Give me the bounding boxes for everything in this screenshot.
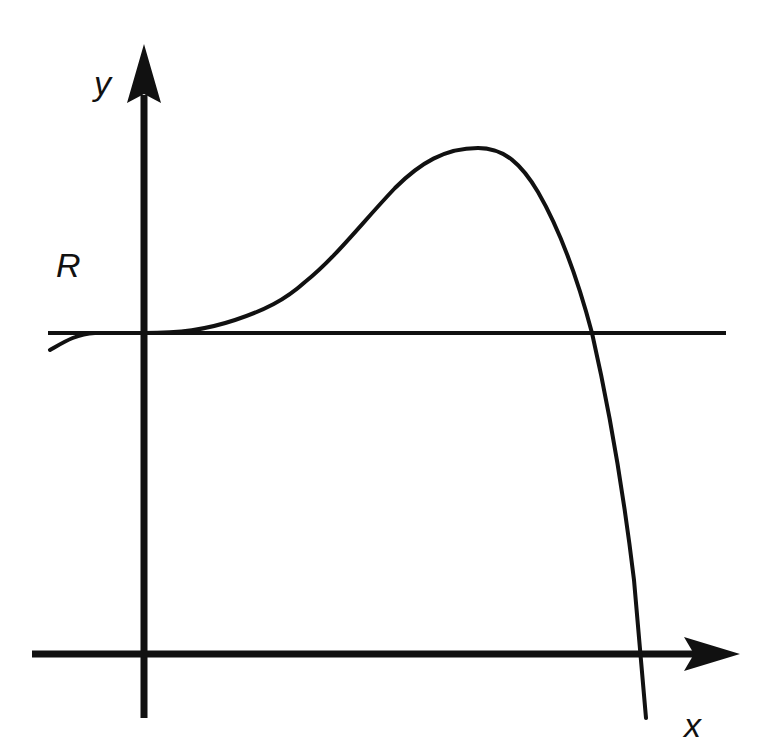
diagram: y R x — [0, 0, 776, 754]
x-axis-label: x — [684, 708, 701, 742]
y-axis-arrowhead-icon — [127, 44, 161, 103]
function-curve — [50, 148, 646, 718]
diagram-canvas — [0, 0, 776, 754]
y-axis-label: y — [94, 66, 111, 100]
reference-label-r: R — [56, 248, 81, 282]
